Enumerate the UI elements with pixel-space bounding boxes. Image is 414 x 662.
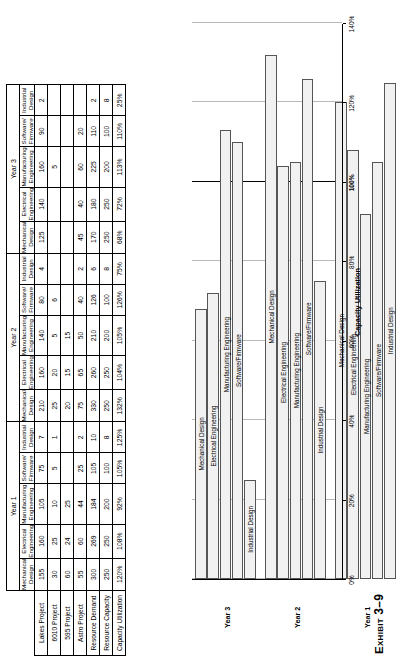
table-cell bbox=[61, 284, 74, 315]
table-cell: 100 bbox=[100, 116, 113, 147]
chart-gridline bbox=[192, 22, 342, 23]
chart-axis-tick bbox=[343, 579, 346, 580]
chart-group-label: Year 2 bbox=[293, 607, 302, 628]
table-cell: 8 bbox=[100, 85, 113, 116]
table-cell: 20 bbox=[61, 390, 74, 422]
table-cell: 170 bbox=[87, 221, 100, 253]
table-cell: 30 bbox=[48, 558, 61, 590]
table-row-label: Resource Demand bbox=[87, 591, 100, 656]
chart-group-label: Year 1 bbox=[363, 607, 372, 628]
table-cell: 125 bbox=[35, 221, 48, 253]
table-cell: 60 bbox=[61, 558, 74, 590]
table-cell: 160 bbox=[35, 147, 48, 187]
table-row: Resource Capacity25025020010082502502001… bbox=[100, 85, 113, 656]
table-cell: 300 bbox=[87, 558, 100, 590]
table-discipline-header: Software/Firmware bbox=[20, 453, 35, 484]
exhibit-page: Year 1Year 2Year 3MechanicalDesignElectr… bbox=[0, 0, 414, 662]
table-discipline-header: ManufacturingEngineering bbox=[20, 315, 35, 355]
chart-bar: Electrical Engineering bbox=[207, 293, 219, 579]
table-cell bbox=[61, 221, 74, 253]
table-year-header-2: Year 2 bbox=[7, 253, 20, 422]
table-cell: 126 bbox=[87, 284, 100, 315]
table-row: Lakes Project155160105757210160140804125… bbox=[35, 85, 48, 656]
table-cell: 60 bbox=[74, 147, 87, 187]
table-discipline-header: MechanicalDesign bbox=[20, 221, 35, 253]
table-cell: 80 bbox=[35, 284, 48, 315]
table-cell: 4 bbox=[35, 253, 48, 284]
table-cell bbox=[61, 116, 74, 147]
table-cell: 15 bbox=[61, 315, 74, 355]
table-cell: 160 bbox=[35, 356, 48, 390]
table-cell: 210 bbox=[87, 315, 100, 355]
table-cell: 5 bbox=[48, 315, 61, 355]
chart-axis-title: Capacity Utilization bbox=[353, 24, 362, 580]
chart-axis-tick bbox=[343, 102, 346, 103]
table-cell: 50 bbox=[74, 315, 87, 355]
table-cell: 10 bbox=[48, 484, 61, 524]
table-cell: 10 bbox=[87, 422, 100, 453]
table-cell bbox=[61, 422, 74, 453]
table-cell: 200 bbox=[100, 484, 113, 524]
table-cell: 180 bbox=[87, 187, 100, 221]
table-cell: 8 bbox=[100, 422, 113, 453]
table-cell: 155 bbox=[35, 558, 48, 590]
chart-bar: Manufacturing Engineering bbox=[220, 130, 232, 579]
table-cell: 15 bbox=[61, 356, 74, 390]
chart-bar: Software/Firmware bbox=[372, 162, 384, 579]
table-row: Resource Demand3002691841051033026021012… bbox=[87, 85, 100, 656]
table-cell: 126% bbox=[113, 284, 126, 315]
chart-bar: Electrical Engineering bbox=[277, 166, 289, 579]
table-discipline-header: ElectricalEngineering bbox=[20, 524, 35, 558]
table-discipline-header: MechanicalDesign bbox=[20, 558, 35, 590]
exhibit-caption-prefix: Exhibit bbox=[373, 618, 385, 654]
capacity-utilization-chart: Mechanical DesignElectrical EngineeringM… bbox=[190, 4, 366, 658]
table-discipline-header: ElectricalEngineering bbox=[20, 187, 35, 221]
exhibit-caption: Exhibit 3–9 bbox=[372, 594, 386, 654]
table-cell: 72% bbox=[113, 187, 126, 221]
table-cell: 105 bbox=[87, 453, 100, 484]
chart-bar: Mechanical Design bbox=[195, 309, 207, 579]
table-cell: 75 bbox=[35, 453, 48, 484]
table-row-label: 595 Project bbox=[61, 591, 74, 656]
table-cell: 250 bbox=[100, 187, 113, 221]
table-header-year-row: Year 1Year 2Year 3 bbox=[7, 85, 20, 656]
table-cell: 44 bbox=[74, 484, 87, 524]
table-cell: 100 bbox=[100, 453, 113, 484]
table-cell: 2 bbox=[35, 85, 48, 116]
table-cell: 105% bbox=[113, 315, 126, 355]
table-cell bbox=[74, 85, 87, 116]
exhibit-content: Year 1Year 2Year 3MechanicalDesignElectr… bbox=[0, 0, 414, 662]
table-corner-cell bbox=[7, 591, 20, 656]
table-cell: 75 bbox=[74, 390, 87, 422]
table-cell: 200 bbox=[100, 315, 113, 355]
table-discipline-header: IndustrialDesign bbox=[20, 253, 35, 284]
chart-axis-tick bbox=[343, 341, 346, 342]
rotated-exhibit-canvas: Year 1Year 2Year 3MechanicalDesignElectr… bbox=[0, 0, 414, 662]
chart-axis-tick bbox=[343, 182, 346, 183]
table-discipline-header: MechanicalDesign bbox=[20, 390, 35, 422]
table-cell: 25% bbox=[113, 85, 126, 116]
table-cell: 25 bbox=[48, 524, 61, 558]
table-cell: 125% bbox=[113, 422, 126, 453]
table-cell: 8 bbox=[100, 253, 113, 284]
chart-axis-tick bbox=[343, 500, 346, 501]
table-row: Capacity Utilization120%108%92%105%125%1… bbox=[113, 85, 126, 656]
table-cell: 140 bbox=[35, 315, 48, 355]
table-cell: 100 bbox=[100, 284, 113, 315]
table-cell: 6 bbox=[48, 284, 61, 315]
table-cell: 90 bbox=[35, 116, 48, 147]
table-discipline-header: ManufacturingEngineering bbox=[20, 147, 35, 187]
table-cell bbox=[61, 85, 74, 116]
table-header-discipline-row: MechanicalDesignElectricalEngineeringMan… bbox=[20, 85, 35, 656]
table-cell: 68% bbox=[113, 221, 126, 253]
table-cell: 105% bbox=[113, 453, 126, 484]
chart-plot-area: Mechanical DesignElectrical EngineeringM… bbox=[192, 24, 342, 580]
table-cell: 40 bbox=[74, 284, 87, 315]
table-discipline-header: IndustrialDesign bbox=[20, 422, 35, 453]
table-discipline-header: Software/Firmware bbox=[20, 284, 35, 315]
table-discipline-header: ManufacturingEngineering bbox=[20, 484, 35, 524]
chart-bar: Mechanical Design bbox=[265, 55, 277, 579]
table-cell: 113% bbox=[113, 147, 126, 187]
table-row-label: Astro Project bbox=[74, 591, 87, 656]
chart-bar: Manufacturing Engineering bbox=[290, 162, 302, 579]
